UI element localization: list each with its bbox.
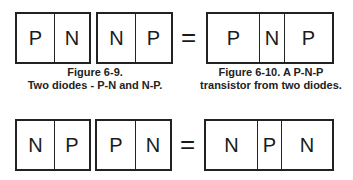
transistor-pnp: P N P — [206, 12, 334, 64]
equals-sign: = — [180, 131, 195, 157]
p-region: P — [284, 14, 332, 62]
n-region: N — [206, 121, 257, 169]
p-region: P — [135, 14, 171, 62]
transistor-npn: N P N — [204, 119, 334, 171]
caption-figure-6-9: Figure 6-9. Two diodes - P-N and N-P. — [20, 66, 170, 92]
caption-title: Figure 6-9. — [20, 66, 170, 79]
n-region: N — [17, 121, 54, 169]
n-region: N — [54, 14, 89, 62]
diode-np: N P — [96, 12, 173, 64]
p-region: P — [208, 14, 259, 62]
caption-figure-6-10: Figure 6-10. A P-N-P transistor from two… — [196, 66, 346, 92]
p-region: P — [54, 121, 89, 169]
caption-title: Figure 6-10. A P-N-P — [196, 66, 346, 79]
diode-pn: P N — [15, 12, 91, 64]
p-region: P — [257, 121, 281, 169]
diode-pn-bottom: P N — [95, 119, 172, 171]
n-region: N — [259, 14, 284, 62]
diode-np-bottom: N P — [15, 119, 91, 171]
n-region: N — [98, 14, 135, 62]
p-region: P — [17, 14, 54, 62]
p-region: P — [97, 121, 135, 169]
caption-text: Two diodes - P-N and N-P. — [20, 79, 170, 92]
caption-text: transistor from two diodes. — [196, 79, 346, 92]
n-region: N — [135, 121, 170, 169]
equals-sign: = — [181, 24, 196, 50]
n-region: N — [281, 121, 332, 169]
